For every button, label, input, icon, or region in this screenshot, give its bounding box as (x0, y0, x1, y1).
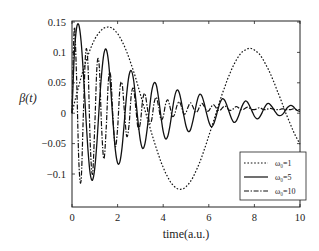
legend: ω₀=1ω₀=5ω₀=10 (240, 152, 306, 200)
y-tick-label: 0.1 (53, 47, 66, 58)
y-tick-label: 0 (61, 108, 66, 119)
x-tick-label: 6 (206, 212, 211, 223)
y-tick-label: −0.1 (47, 169, 66, 180)
legend-label: ω₀=5 (275, 173, 292, 182)
x-tick-label: 8 (252, 212, 257, 223)
legend-label: ω₀=10 (275, 187, 296, 196)
x-tick-label: 10 (295, 212, 306, 223)
y-tick-label: −0.05 (42, 138, 66, 149)
x-axis-label: time(a.u.) (163, 227, 210, 241)
y-tick-label: 0.15 (48, 17, 66, 28)
line-chart: 0246810−0.1−0.0500.050.10.15 time(a.u.) … (0, 0, 319, 251)
legend-box (240, 152, 306, 200)
x-tick-label: 2 (115, 212, 120, 223)
x-tick-label: 4 (161, 212, 167, 223)
legend-label: ω₀=1 (275, 159, 292, 168)
y-tick-label: 0.05 (48, 77, 66, 88)
x-tick-label: 0 (69, 212, 74, 223)
y-axis-label: β(t) (18, 91, 36, 105)
